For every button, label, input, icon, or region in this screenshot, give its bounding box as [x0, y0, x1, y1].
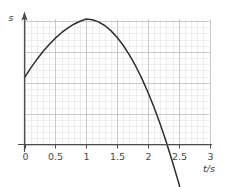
x-tick-label: 0.5 [48, 151, 63, 162]
s-t-graph: 00.511.522.53 s t/s [0, 0, 234, 187]
x-tick-label: 1.5 [110, 151, 125, 162]
x-tick-label: 2 [145, 151, 151, 162]
x-axis-title: t/s [203, 163, 215, 174]
x-tick-label: 2.5 [172, 151, 187, 162]
chart-axes [18, 12, 212, 153]
data-curve [25, 19, 188, 187]
chart-figure: 00.511.522.53 s t/s [0, 0, 234, 187]
y-axis-title: s [9, 12, 14, 23]
x-tick-label: 0 [22, 151, 28, 162]
grid-minor-horizontal [25, 28, 210, 139]
grid-major-horizontal [25, 22, 210, 146]
x-tick-label: 3 [207, 151, 213, 162]
x-axis-tick-labels: 00.511.522.53 [22, 151, 213, 162]
x-tick-label: 1 [83, 151, 89, 162]
